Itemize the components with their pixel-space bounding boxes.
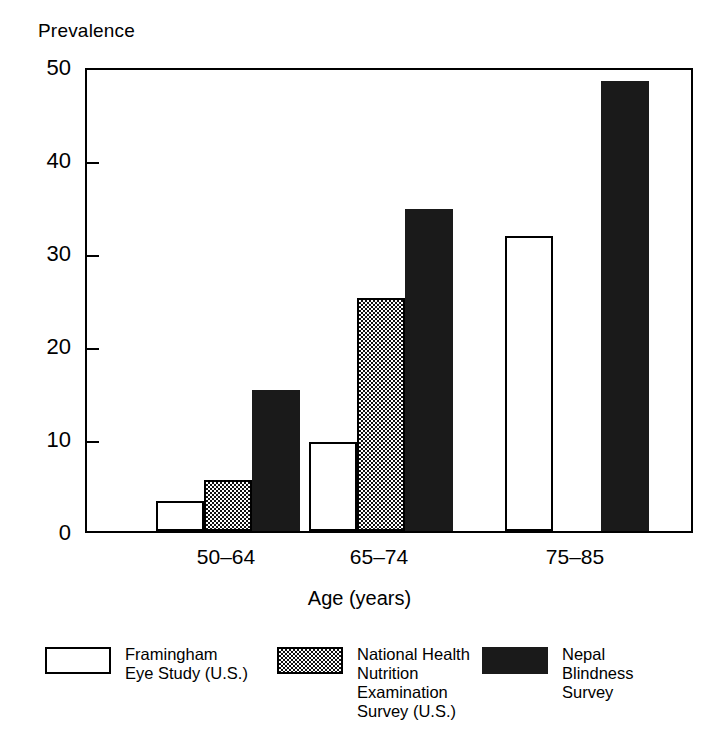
x-axis-tick-label: 65–74 (309, 545, 449, 569)
legend-label: National Health Nutrition Examination Su… (357, 645, 470, 721)
legend-swatch (482, 647, 548, 674)
plot-inner (87, 70, 691, 531)
y-axis-tick (87, 348, 99, 350)
x-axis-tick-label: 50–64 (156, 545, 296, 569)
y-axis-tick-label: 0 (11, 522, 71, 544)
bar (405, 209, 453, 531)
legend-label: Framingham Eye Study (U.S.) (125, 645, 248, 683)
y-axis-tick-label: 50 (11, 57, 71, 79)
legend-swatch (45, 647, 111, 674)
x-axis-title: Age (years) (0, 587, 719, 610)
bar (601, 81, 649, 531)
bar (309, 442, 357, 531)
bar (156, 501, 204, 531)
legend-item: Nepal Blindness Survey (482, 645, 682, 702)
y-axis-tick-label: 30 (11, 243, 71, 265)
legend-item: National Health Nutrition Examination Su… (277, 645, 482, 721)
y-axis-tick-label: 40 (11, 150, 71, 172)
plot-area (85, 68, 693, 533)
legend-item: Framingham Eye Study (U.S.) (45, 645, 277, 683)
bar (357, 298, 405, 531)
y-axis-title: Prevalence (38, 20, 135, 42)
y-axis-tick-label: 10 (11, 429, 71, 451)
prevalence-bar-chart: Prevalence 01020304050 50–6465–7475–85 A… (0, 0, 719, 740)
chart-legend: Framingham Eye Study (U.S.)National Heal… (45, 645, 705, 721)
bar (252, 390, 300, 531)
bar (505, 236, 553, 531)
legend-swatch (277, 647, 343, 674)
y-axis-tick (87, 441, 99, 443)
y-axis-tick (87, 162, 99, 164)
bar (204, 480, 252, 531)
y-axis-tick-label: 20 (11, 336, 71, 358)
x-axis-tick-label: 75–85 (505, 545, 645, 569)
y-axis-tick (87, 255, 99, 257)
legend-label: Nepal Blindness Survey (562, 645, 634, 702)
